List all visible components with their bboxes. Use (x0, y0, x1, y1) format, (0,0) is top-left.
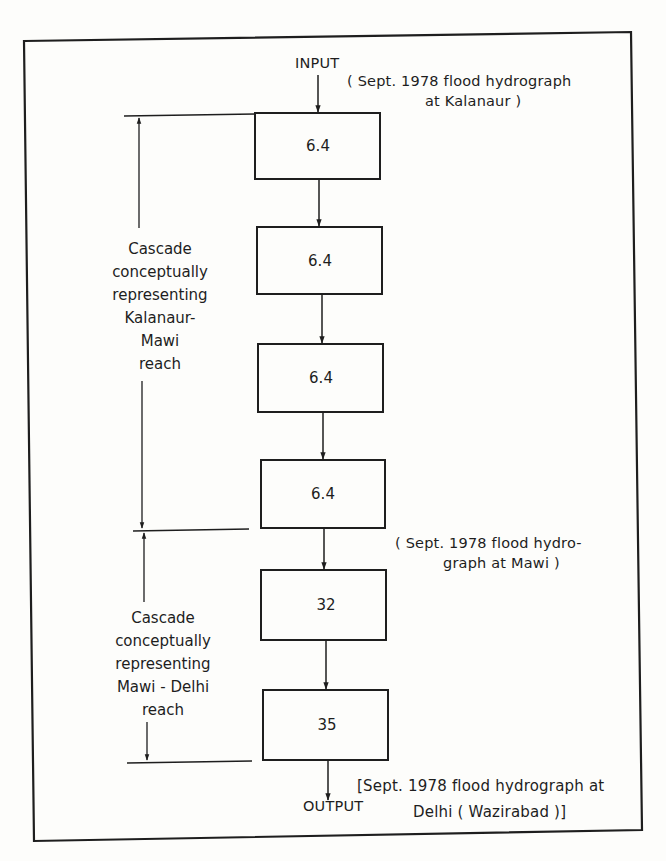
input-note-line1: ( Sept. 1978 flood hydrograph (347, 71, 571, 92)
cascade-1-line-4: Kalanaur- (80, 307, 240, 330)
cascade-kalanaur-mawi-label: Cascade conceptually representing Kalana… (80, 238, 240, 376)
cascade-2-line-3: representing (83, 653, 243, 676)
cascade-1-line-6: reach (80, 353, 240, 376)
input-note-line2: at Kalanaur ) (425, 91, 521, 112)
cascade-mawi-delhi-label: Cascade conceptually representing Mawi -… (83, 607, 243, 722)
cascade-1-line-2: conceptually (80, 261, 240, 284)
tick-bottom (127, 761, 252, 763)
input-label: INPUT (295, 53, 339, 74)
diagram-canvas: INPUT ( Sept. 1978 flood hydrograph at K… (0, 0, 666, 861)
tick-middle (133, 529, 249, 531)
output-note-line2: Delhi ( Wazirabad )] (413, 802, 566, 823)
tick-top (124, 114, 255, 116)
cascade-2-line-1: Cascade (83, 607, 243, 630)
cascade-2-line-4: Mawi - Delhi (83, 676, 243, 699)
cascade-2-line-2: conceptually (83, 630, 243, 653)
cascade-1-line-3: representing (80, 284, 240, 307)
cascade-2-line-5: reach (83, 699, 243, 722)
cascade-1-line-5: Mawi (80, 330, 240, 353)
box-6-value: 35 (317, 716, 336, 734)
box-2-value: 6.4 (308, 252, 332, 270)
box-1-value: 6.4 (306, 137, 330, 155)
mawi-note-line1: ( Sept. 1978 flood hydro- (395, 533, 582, 554)
box-4-value: 6.4 (311, 485, 335, 503)
mawi-note-line2: graph at Mawi ) (443, 553, 560, 574)
cascade-1-line-1: Cascade (80, 238, 240, 261)
output-note-line1: [Sept. 1978 flood hydrograph at (357, 776, 604, 797)
box-5-value: 32 (316, 596, 335, 614)
output-label: OUTPUT (303, 796, 363, 817)
box-3-value: 6.4 (309, 369, 333, 387)
